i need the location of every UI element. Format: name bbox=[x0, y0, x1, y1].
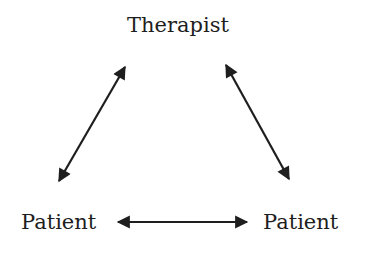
bidirectional-arrow-therapist-patient-left bbox=[59, 67, 125, 181]
bidirectional-arrow-therapist-patient-right bbox=[226, 65, 289, 179]
arrows-layer bbox=[0, 0, 365, 255]
